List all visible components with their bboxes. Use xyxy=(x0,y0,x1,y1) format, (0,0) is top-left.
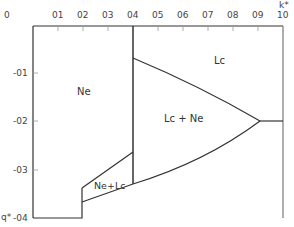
region-label-ne: Ne xyxy=(77,87,91,97)
upper-curve xyxy=(133,58,260,121)
x-tick-label: 07 xyxy=(202,11,213,20)
x-tick-label: 04 xyxy=(127,11,138,20)
y-axis-title: q* xyxy=(1,213,11,222)
x-tick-label: 08 xyxy=(227,11,238,20)
region-label-lc: Lc xyxy=(214,56,225,66)
region-label-lc-ne: Lc + Ne xyxy=(164,114,203,124)
bottom-step xyxy=(33,188,82,218)
y-tick-label: -02 xyxy=(13,117,28,126)
x-tick-label: 06 xyxy=(177,11,188,20)
x-tick-label: 05 xyxy=(152,11,163,20)
region-label-ne-lc: Ne+Lc xyxy=(94,181,125,191)
x-tick-label: 03 xyxy=(102,11,113,20)
x-tick-label: 10 xyxy=(277,11,288,20)
x-tick-label: 0 xyxy=(4,11,10,20)
phase-diagram xyxy=(0,0,294,227)
x-tick-label: 02 xyxy=(77,11,88,20)
y-tick-label: -04 xyxy=(13,214,28,223)
y-tick-label: -01 xyxy=(13,69,28,78)
x-tick-label: 09 xyxy=(252,11,263,20)
y-tick-label: -03 xyxy=(13,166,28,175)
x-tick-label: 01 xyxy=(52,11,63,20)
x-axis-title: k* xyxy=(279,1,289,10)
